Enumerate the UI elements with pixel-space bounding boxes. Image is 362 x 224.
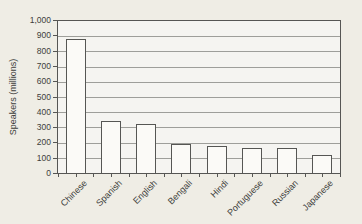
x-tick-mark (181, 174, 182, 177)
x-tick-mark (287, 174, 288, 177)
bar-hindi (207, 146, 227, 173)
y-tick-label: 500 (0, 92, 51, 102)
x-tick-mark (217, 174, 218, 177)
gridline (58, 82, 340, 83)
y-tick-mark (53, 173, 57, 174)
gridline (58, 97, 340, 98)
y-tick-mark (53, 20, 57, 21)
x-tick-mark (129, 174, 130, 177)
y-tick-mark (53, 66, 57, 67)
y-tick-label: 100 (0, 153, 51, 163)
x-tick-mark (252, 174, 253, 177)
gridline (58, 36, 340, 37)
y-tick-mark (53, 158, 57, 159)
y-tick-label: 400 (0, 107, 51, 117)
bar-chart-figure: Speakers (millions) 01002003004005006007… (0, 0, 362, 224)
y-tick-mark (53, 81, 57, 82)
x-tick-mark (111, 174, 112, 177)
y-tick-label: 600 (0, 76, 51, 86)
x-tick-mark (76, 174, 77, 177)
x-tick-mark (93, 174, 94, 177)
bar-japanese (312, 155, 332, 173)
y-tick-label: 700 (0, 61, 51, 71)
bar-english (136, 124, 156, 173)
y-tick-mark (53, 127, 57, 128)
bar-russian (277, 148, 297, 173)
x-tick-mark (322, 174, 323, 177)
y-tick-mark (53, 35, 57, 36)
x-tick-mark (340, 174, 341, 177)
x-tick-mark (199, 174, 200, 177)
gridline (58, 112, 340, 113)
y-tick-mark (53, 142, 57, 143)
bar-spanish (101, 121, 121, 173)
y-tick-mark (53, 97, 57, 98)
gridline (58, 67, 340, 68)
x-tick-mark (58, 174, 59, 177)
bar-chinese (66, 39, 86, 173)
y-tick-label: 1,000 (0, 15, 51, 25)
y-tick-label: 800 (0, 46, 51, 56)
bar-portuguese (242, 148, 262, 173)
y-tick-label: 900 (0, 30, 51, 40)
plot-area (57, 20, 341, 174)
y-tick-label: 300 (0, 122, 51, 132)
x-tick-mark (305, 174, 306, 177)
x-tick-mark (234, 174, 235, 177)
x-tick-mark (270, 174, 271, 177)
x-tick-mark (146, 174, 147, 177)
y-tick-mark (53, 51, 57, 52)
y-tick-label: 0 (0, 168, 51, 178)
gridline (58, 51, 340, 52)
y-tick-label: 200 (0, 137, 51, 147)
y-tick-mark (53, 112, 57, 113)
bar-bengali (171, 144, 191, 173)
x-tick-mark (164, 174, 165, 177)
